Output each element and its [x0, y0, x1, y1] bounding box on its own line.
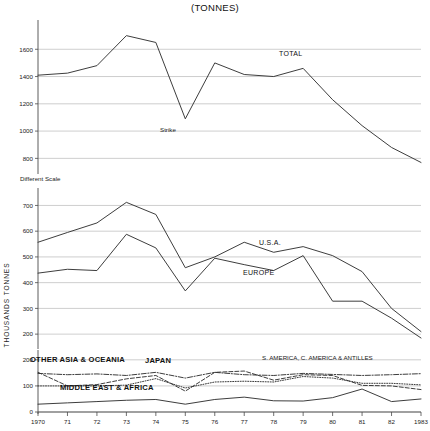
series-label-total: TOTAL [279, 50, 302, 57]
y-tick-label: 600 [23, 227, 34, 234]
y-tick-label: 1200 [19, 100, 33, 107]
x-tick-label: 1970 [31, 418, 45, 425]
annotation-strike: Strike [160, 126, 176, 133]
x-tick-label: 79 [300, 418, 307, 425]
y-tick-label: 1000 [19, 127, 33, 134]
panel-total: 8001000120014001600 [19, 20, 421, 174]
y-tick-label: 400 [23, 279, 34, 286]
chart-page: (TONNES)Different ScaleTHOUSANDS TONNES8… [0, 0, 430, 431]
x-tick-label: 78 [270, 418, 277, 425]
series-label-japan: JAPAN [145, 356, 171, 365]
chart-title: (TONNES) [191, 2, 239, 13]
series-line-other-asia-oceania [38, 372, 421, 378]
series-label-middle-east-africa: MIDDLE EAST & AFRICA [60, 383, 154, 392]
y-tick-label: 500 [23, 253, 34, 260]
different-scale-note: Different Scale [20, 175, 61, 182]
x-tick-label: 76 [211, 418, 218, 425]
x-tick-label: 1983 [414, 418, 428, 425]
y-tick-label: 1600 [19, 46, 33, 53]
y-tick-label: 100 [23, 382, 34, 389]
x-tick-label: 72 [93, 418, 100, 425]
series-line-u-s-a [38, 202, 421, 331]
panel-usa-europe: 200300400500600700 [23, 188, 421, 349]
series-label-europe: EUROPE [243, 269, 274, 276]
series-label-usa: U.S.A. [259, 239, 281, 246]
y-tick-label: 800 [23, 155, 34, 162]
y-tick-label: 0 [30, 408, 34, 415]
x-tick-label: 73 [123, 418, 130, 425]
y-tick-label: 1400 [19, 73, 33, 80]
x-tick-label: 82 [388, 418, 395, 425]
x-tick-label: 81 [359, 418, 366, 425]
x-tick-label: 74 [152, 418, 159, 425]
series-line-total [38, 36, 421, 163]
y-tick-label: 700 [23, 202, 34, 209]
y-tick-label: 300 [23, 305, 34, 312]
x-tick-label: 80 [329, 418, 336, 425]
y-axis-label: THOUSANDS TONNES [3, 263, 10, 348]
x-tick-label: 77 [241, 418, 248, 425]
x-axis: 19707172737475767778798081821983 [31, 412, 428, 425]
series-label-other-asia-oceania: OTHER ASIA & OCEANIA [30, 355, 125, 364]
x-tick-label: 75 [182, 418, 189, 425]
multi-panel-line-chart: (TONNES)Different ScaleTHOUSANDS TONNES8… [0, 0, 430, 431]
x-tick-label: 71 [64, 418, 71, 425]
series-label-s-america: S. AMERICA, C. AMERICA & ANTILLES [262, 354, 373, 361]
y-tick-label: 200 [23, 330, 34, 337]
